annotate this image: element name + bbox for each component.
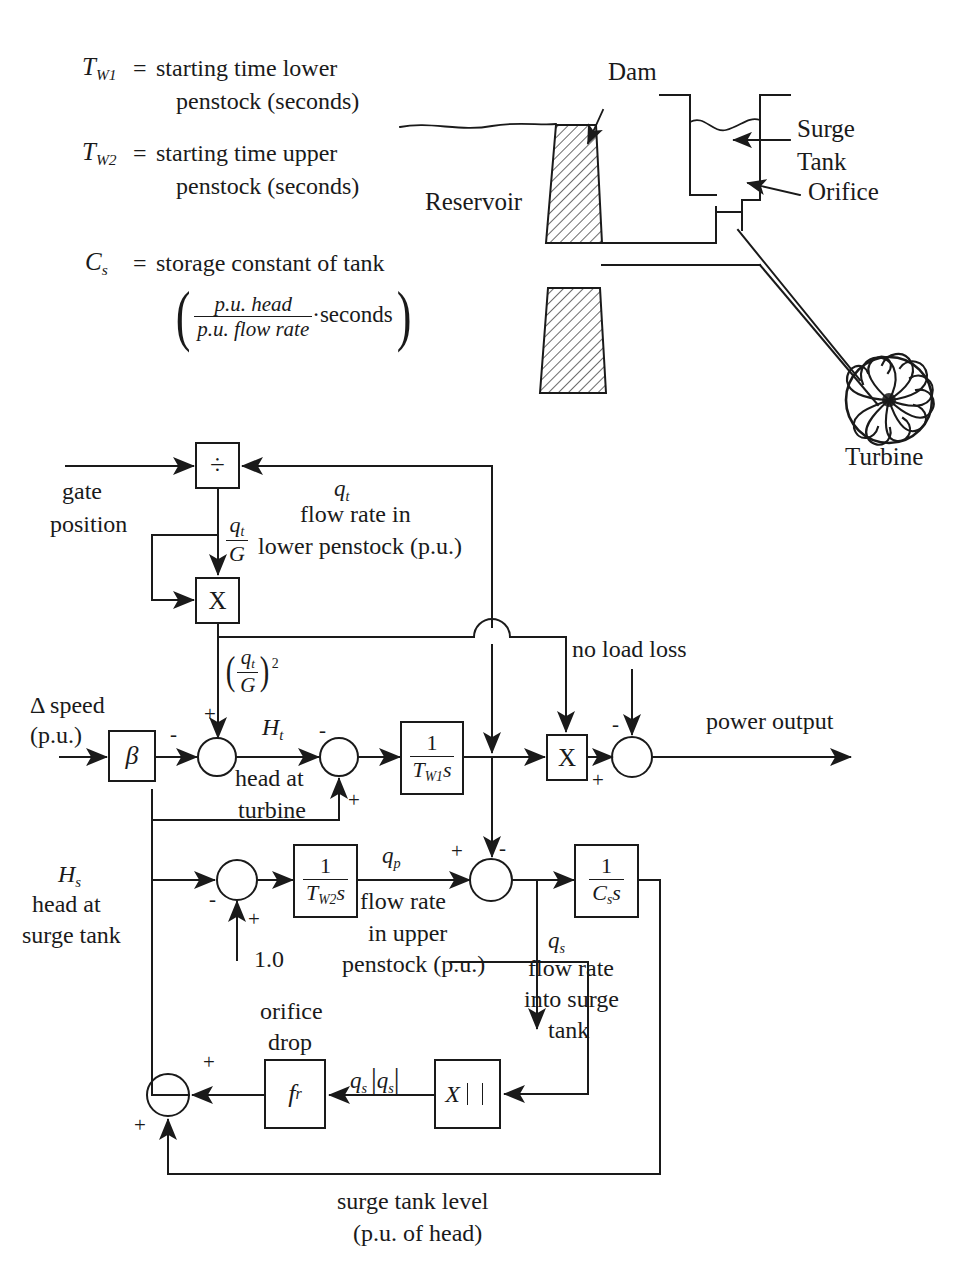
- sum1-minus-sign: -: [170, 722, 177, 747]
- qt-over-g-numerator: qt: [226, 512, 248, 540]
- orifice-callout-arrow: [748, 183, 800, 195]
- cs-denominator: Css: [589, 879, 624, 908]
- legend-text-tw1-line2: penstock (seconds): [176, 88, 359, 116]
- reservoir-label: Reservoir: [425, 188, 522, 217]
- wire-hs-to-sum4: [152, 790, 214, 880]
- orifice-drop-label-line2: drop: [268, 1029, 312, 1057]
- surge-tank-right-wall: [742, 95, 760, 230]
- tw2-block-label[interactable]: 1 TW2s: [294, 845, 357, 917]
- qt-symbol: qt: [334, 476, 349, 504]
- tw2-numerator: 1: [303, 853, 348, 879]
- hs-label-line1: head at: [32, 891, 101, 919]
- penstock-lower-upper-edge: [738, 230, 860, 380]
- sum3-minus-sign: -: [612, 712, 619, 737]
- cs-units-denominator: p.u. flow rate: [194, 316, 312, 341]
- gate-position-label-line1: gate: [62, 478, 102, 506]
- cs-numerator: 1: [589, 853, 624, 879]
- delta-speed-label-line2: (p.u.): [30, 722, 82, 750]
- hs-label-line2: surge tank: [22, 922, 121, 950]
- turbine-runner: [846, 354, 934, 445]
- right-paren: ): [397, 288, 412, 345]
- cs-units-tail: seconds: [320, 302, 393, 327]
- sq-left-paren: (: [226, 648, 236, 694]
- sum4-minus-sign: -: [209, 887, 216, 912]
- legend-text-tw2-line1: starting time upper: [156, 140, 337, 168]
- legend-text-tw2-line2: penstock (seconds): [176, 173, 359, 201]
- diagram-canvas: TW1 = starting time lower penstock (seco…: [0, 0, 964, 1272]
- legend-eq-tw2: =: [133, 140, 147, 168]
- qt-label-line1: flow rate in: [300, 501, 411, 529]
- qs-label-line3: tank: [548, 1017, 589, 1045]
- qs-label-line1: flow rate: [528, 955, 614, 983]
- cs-block-label[interactable]: 1 Css: [575, 845, 638, 917]
- legend-text-tw1-line1: starting time lower: [156, 55, 337, 83]
- qp-label-line3: penstock (p.u.): [342, 951, 485, 979]
- ht-label-line2: turbine: [238, 797, 306, 825]
- orifice-drop-label-line1: orifice: [260, 998, 323, 1026]
- sum-junction-4-shape: [217, 860, 257, 900]
- legend-eq-tw1: =: [133, 55, 147, 83]
- sum6-plus-bottom-sign: +: [134, 1113, 146, 1138]
- reservoir-water-surface: [400, 124, 556, 128]
- sum4-plus-sign: +: [248, 907, 260, 932]
- sq-numerator: qt: [237, 645, 258, 672]
- sum-junction-2-shape: [320, 738, 358, 776]
- qt-label-line2: lower penstock (p.u.): [258, 533, 462, 561]
- divide-block-label[interactable]: ÷: [196, 443, 239, 488]
- qs-abs-qs-label: qs|qs|: [350, 1062, 400, 1096]
- sum5-minus-sign: -: [499, 836, 506, 861]
- sum3-plus-sign: +: [592, 768, 604, 793]
- sum-junction-3-shape: [612, 737, 652, 777]
- legend-symbol-cs: Cs: [85, 248, 108, 279]
- orifice-label: Orifice: [808, 178, 879, 207]
- sq-right-paren: ): [260, 648, 270, 694]
- beta-block-label[interactable]: β: [109, 731, 155, 781]
- multiply-right-block-label[interactable]: X: [547, 735, 587, 780]
- dam-upper-body: [546, 125, 602, 243]
- tw1-denominator: TW1s: [410, 756, 455, 785]
- qs-symbol: qs: [548, 928, 565, 956]
- qp-symbol: qp: [382, 843, 401, 871]
- ht-label-line1: head at: [235, 765, 304, 793]
- orifice-throat: [716, 207, 742, 212]
- surge-tank-water-level: [690, 119, 760, 130]
- legend-cs-units: ( p.u. head p.u. flow rate ·seconds): [172, 288, 415, 345]
- qt-over-g-squared-label: ( qt G )2: [224, 645, 279, 697]
- wire-sq-bus-right: [510, 637, 566, 731]
- dam-label: Dam: [608, 58, 657, 87]
- no-load-loss-label: no load loss: [572, 636, 687, 664]
- sum-junction-1-shape: [198, 738, 236, 776]
- absmult-block-label[interactable]: X: [435, 1060, 500, 1128]
- surge-tank-left-wall: [690, 95, 716, 195]
- qt-over-g-label: qt G: [226, 512, 248, 566]
- sum2-minus-sign: -: [319, 718, 326, 743]
- qs-label-line2: into surge: [524, 986, 619, 1014]
- multiply-top-block-label[interactable]: X: [196, 578, 239, 623]
- dam-lower-body: [540, 288, 606, 393]
- tw2-denominator: TW2s: [303, 879, 348, 908]
- qp-label-line1: flow rate: [360, 888, 446, 916]
- tw1-block-label[interactable]: 1 TW1s: [401, 722, 463, 794]
- sq-exponent: 2: [272, 656, 279, 671]
- conduit-upper: [600, 207, 716, 243]
- turbine-label: Turbine: [845, 443, 923, 472]
- ht-symbol: Ht: [262, 714, 283, 744]
- legend-eq-cs: =: [133, 250, 147, 278]
- gate-position-label-line2: position: [50, 511, 127, 539]
- qp-label-line2: in upper: [368, 920, 447, 948]
- sum2-plus-sign: +: [348, 788, 360, 813]
- sum1-plus-sign: +: [204, 702, 216, 727]
- legend-text-cs-line1: storage constant of tank: [156, 250, 385, 278]
- sum5-plus-sign: +: [451, 839, 463, 864]
- qt-over-g-denominator: G: [226, 540, 248, 566]
- legend-symbol-tw1: TW1: [82, 53, 117, 84]
- power-output-label: power output: [706, 708, 833, 736]
- penstock-lower-lower-edge: [760, 265, 878, 405]
- delta-speed-label-line1: Δ speed: [30, 692, 105, 720]
- surge-level-label-line2: (p.u. of head): [353, 1220, 482, 1248]
- sq-denominator: G: [237, 672, 258, 697]
- fr-block-label[interactable]: fr: [265, 1060, 325, 1128]
- surge-tank-label-line2: Tank: [797, 148, 847, 177]
- surge-level-label-line1: surge tank level: [337, 1188, 489, 1216]
- cs-units-numerator: p.u. head: [194, 292, 312, 316]
